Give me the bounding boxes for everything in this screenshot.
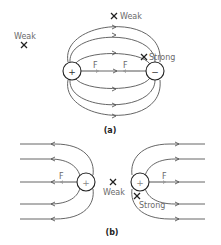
charge-sign: − (151, 67, 159, 77)
field-strength-label: Weak (103, 188, 125, 197)
x-mark-icon (134, 193, 140, 199)
x-mark-icon (110, 179, 116, 185)
force-label: F (123, 61, 128, 70)
x-mark-icon (21, 42, 27, 48)
caption-b: (b) (105, 228, 118, 237)
field-strength-label: Strong (139, 201, 165, 210)
field-strength-label: Weak (120, 12, 142, 21)
force-label: F (162, 172, 167, 181)
charge-sign: + (136, 178, 144, 188)
x-mark-icon (111, 13, 117, 19)
force-label: F (59, 172, 64, 181)
panel-b: F F + + Weak Strong (b) (20, 142, 205, 237)
field-strength-label: Weak (14, 32, 36, 41)
field-strength-label: Strong (149, 53, 175, 62)
charge-sign: + (82, 178, 90, 188)
force-label: F (93, 61, 98, 70)
caption-a: (a) (104, 126, 117, 135)
panel-a: F F + − Weak Weak Strong (a) (14, 12, 175, 135)
charge-sign: + (68, 67, 76, 77)
electric-field-diagram: F F + − Weak Weak Strong (a) (0, 0, 221, 245)
